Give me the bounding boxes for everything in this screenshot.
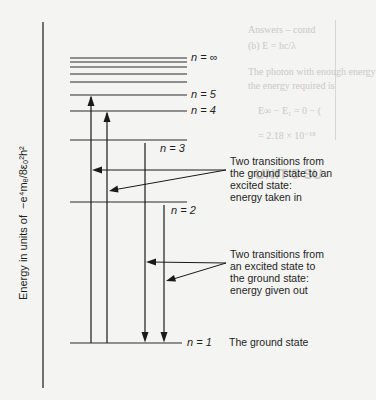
energy-levels [70, 58, 187, 343]
absorption-annotation: Two transitions from the ground state to… [230, 155, 332, 203]
absorption-pointers [92, 167, 226, 193]
emission-annotation: Two transitions from an excited state to… [230, 248, 324, 296]
label-n1: n = 1 [187, 336, 212, 348]
label-n-infinity: n = ∞ [191, 51, 218, 63]
energy-axis-label: Energy in units of −e⁴mₑ/8ε₀²h² [17, 146, 29, 300]
transitions [88, 96, 168, 344]
label-n3: n = 3 [160, 142, 185, 154]
label-n5: n = 5 [191, 88, 216, 100]
emission-pointers [146, 259, 226, 282]
ground-state-label: The ground state [229, 336, 308, 348]
label-n2: n = 2 [171, 204, 196, 216]
label-n4: n = 4 [191, 104, 216, 116]
